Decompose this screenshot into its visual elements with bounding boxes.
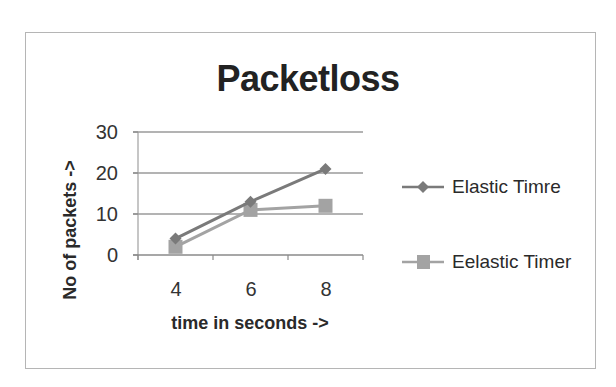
y-tick-label: 20 [78,162,118,185]
y-tick-label: 10 [78,203,118,226]
x-tick-label: 8 [311,278,341,301]
square-marker [319,199,333,213]
legend-label: Elastic Timre [452,175,572,199]
legend-label: Eelastic Timer [452,250,572,274]
y-tick-label: 0 [78,244,118,267]
x-axis-title: time in seconds -> [171,313,329,334]
diamond-marker-icon [400,175,448,195]
y-tick-label: 30 [78,121,118,144]
legend-item-elastic-timre: Elastic Timre [400,175,572,199]
x-tick-label: 6 [236,278,266,301]
square-marker-icon [400,250,448,270]
legend-item-eelastic-timer: Eelastic Timer [400,250,572,274]
x-tick-label: 4 [161,278,191,301]
series-lines [169,163,333,254]
axes [133,132,363,260]
